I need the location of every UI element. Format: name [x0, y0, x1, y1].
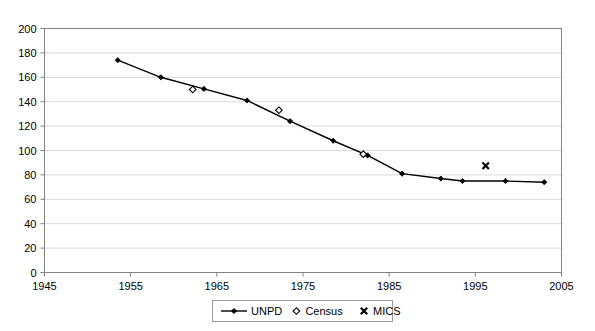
data-point-unpd	[158, 75, 163, 80]
x-tick-label: 1985	[377, 280, 401, 292]
line-chart: 020406080100120140160180200 194519551965…	[0, 0, 595, 331]
x-axis-tick-labels: 1945195519651975198519952005	[32, 280, 573, 292]
x-tick-label: 1945	[32, 280, 56, 292]
x-tick-label: 1955	[118, 280, 142, 292]
data-series-layer	[115, 58, 547, 185]
chart-legend: UNPDCensusMICS	[213, 301, 401, 322]
data-point-mics	[482, 163, 488, 169]
legend-label-unpd: UNPD	[251, 305, 282, 317]
x-axis-tick-marks	[45, 273, 562, 277]
y-tick-label: 60	[24, 193, 36, 205]
data-point-unpd	[542, 180, 547, 185]
y-tick-label: 0	[30, 267, 36, 279]
data-point-unpd	[244, 98, 249, 103]
legend-label-mics: MICS	[373, 305, 401, 317]
x-tick-label: 1975	[291, 280, 315, 292]
data-point-unpd	[460, 178, 465, 183]
y-tick-label: 80	[24, 169, 36, 181]
data-point-unpd	[115, 58, 120, 63]
y-axis-tick-labels: 020406080100120140160180200	[18, 23, 36, 279]
y-axis-tick-marks	[41, 29, 45, 273]
data-point-unpd	[438, 176, 443, 181]
x-tick-label: 1965	[205, 280, 229, 292]
y-tick-label: 180	[18, 47, 36, 59]
data-point-census	[276, 107, 283, 114]
series-unpd	[115, 58, 547, 185]
x-tick-label: 2005	[549, 280, 573, 292]
series-mics	[482, 163, 488, 169]
chart-container: 020406080100120140160180200 194519551965…	[0, 0, 595, 331]
y-tick-label: 120	[18, 120, 36, 132]
data-point-unpd	[503, 178, 508, 183]
y-tick-label: 100	[18, 145, 36, 157]
y-tick-label: 160	[18, 71, 36, 83]
y-tick-label: 200	[18, 23, 36, 35]
series-line-unpd	[118, 60, 545, 182]
x-tick-label: 1995	[463, 280, 487, 292]
data-point-unpd	[201, 86, 206, 91]
data-point-unpd	[399, 171, 404, 176]
data-point-unpd	[287, 119, 292, 124]
series-census	[189, 86, 366, 157]
data-point-unpd	[331, 138, 336, 143]
legend-label-census: Census	[305, 305, 343, 317]
y-tick-label: 40	[24, 218, 36, 230]
y-tick-label: 140	[18, 96, 36, 108]
y-tick-label: 20	[24, 242, 36, 254]
